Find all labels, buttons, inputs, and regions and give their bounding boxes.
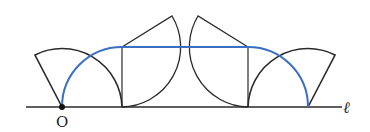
middle-right-sector [189, 16, 248, 107]
middle-left-sector [122, 16, 181, 107]
origin-label: O [56, 113, 68, 131]
line-label: ℓ [343, 98, 350, 117]
right-sector [248, 49, 335, 107]
origin-point [59, 104, 65, 110]
locus-path [62, 47, 308, 107]
left-sector [35, 49, 122, 107]
diagram-canvas: O ℓ [0, 0, 370, 132]
